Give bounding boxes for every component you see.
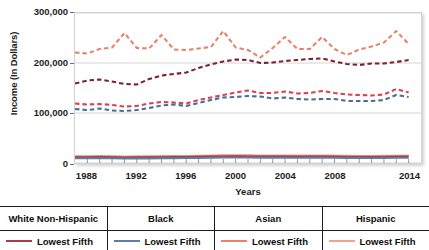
legend-entry-label: Lowest Fifth — [145, 236, 201, 247]
chart-legend: White Non-HispanicLowest FifthBlackLowes… — [0, 206, 429, 250]
legend-entry-label: Lowest Fifth — [37, 236, 93, 247]
chart-page: Income (In Dollars) 0100,000200,000300,0… — [0, 0, 429, 250]
series-line — [75, 95, 409, 111]
legend-column: White Non-HispanicLowest Fifth — [0, 207, 108, 250]
x-tick-label: 2000 — [214, 170, 258, 181]
legend-group-header: Asian — [215, 207, 322, 231]
series-line — [75, 31, 409, 57]
income-line-chart: Income (In Dollars) 0100,000200,000300,0… — [0, 0, 429, 205]
legend-swatch-icon — [221, 240, 247, 242]
legend-group-header: Hispanic — [323, 207, 429, 231]
y-tick-label: 300,000 — [2, 6, 68, 17]
x-tick-label: 1996 — [164, 170, 208, 181]
y-tick-label: 200,000 — [2, 57, 68, 68]
plot-svg — [75, 13, 421, 163]
legend-swatch-icon — [114, 240, 140, 242]
x-tick-label: 1988 — [64, 170, 108, 181]
x-tick-label: 1992 — [114, 170, 158, 181]
x-tick-label: 2008 — [313, 170, 357, 181]
series-line — [75, 59, 409, 85]
legend-entry[interactable]: Lowest Fifth — [108, 231, 215, 250]
y-tick-mark — [70, 164, 74, 165]
legend-column: AsianLowest Fifth — [215, 207, 323, 250]
legend-column: BlackLowest Fifth — [108, 207, 216, 250]
y-tick-label: 0 — [2, 158, 68, 169]
legend-group-header: White Non-Hispanic — [0, 207, 107, 231]
x-tick-label: 2004 — [263, 170, 307, 181]
series-line — [75, 158, 409, 159]
y-axis-title: Income (In Dollars) — [8, 9, 19, 139]
plot-area — [74, 12, 422, 164]
series-lines — [75, 31, 409, 159]
legend-entry-label: Lowest Fifth — [252, 236, 308, 247]
legend-entry[interactable]: Lowest Fifth — [323, 231, 429, 250]
legend-entry[interactable]: Lowest Fifth — [215, 231, 322, 250]
x-axis-tick-marks — [87, 159, 408, 163]
legend-column: HispanicLowest Fifth — [323, 207, 429, 250]
x-tick-label: 2014 — [388, 170, 429, 181]
y-tick-label: 100,000 — [2, 107, 68, 118]
series-line — [75, 89, 409, 107]
legend-swatch-icon — [6, 240, 32, 242]
x-axis-title: Years — [74, 186, 422, 197]
legend-entry[interactable]: Lowest Fifth — [0, 231, 107, 250]
legend-group-header: Black — [108, 207, 215, 231]
legend-swatch-icon — [329, 240, 355, 242]
legend-entry-label: Lowest Fifth — [360, 236, 416, 247]
